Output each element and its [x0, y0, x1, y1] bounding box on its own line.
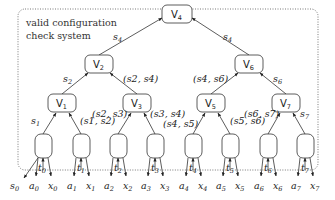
edge-label-v1-v2: s2 — [63, 73, 72, 86]
t-label-0: t0 — [38, 162, 46, 175]
bottom-label-x1: x1 — [86, 180, 96, 193]
arrow-x6-out — [273, 158, 276, 176]
arrow-x0-out — [48, 158, 51, 176]
arrow-x1-out — [86, 158, 89, 176]
arrow-a4-out — [186, 158, 188, 176]
leaf-node-2 — [110, 134, 127, 158]
bottom-label-s0: s0 — [10, 180, 19, 193]
bottom-label-x0: x0 — [48, 180, 58, 193]
bottom-label-x3: x3 — [160, 180, 170, 193]
bottom-label-a6: a6 — [254, 180, 264, 193]
edge-label-v2-v4: s4 — [113, 31, 122, 44]
arrow-a1-out — [74, 158, 76, 176]
bottom-label-a2: a2 — [104, 180, 114, 193]
configuration-check-diagram: valid configuration check system — [0, 0, 335, 200]
bottom-label-a7: a7 — [291, 180, 302, 193]
leaf-node-0 — [35, 134, 52, 158]
arrow-x3-out — [160, 158, 163, 176]
bottom-output-labels: s0 a0 x0 a1 x1 a2 x2 a3 x3 a4 x4 a5 x5 a… — [10, 180, 320, 193]
arrow-a3-out — [148, 158, 150, 176]
arrow-a7-out — [298, 158, 300, 176]
leaf-node-7 — [297, 134, 314, 158]
leaf-node-4 — [185, 134, 202, 158]
arrow-a2-out — [111, 158, 113, 176]
edge-label-l7-v7: s7 — [300, 108, 310, 121]
arrow-a6-out — [261, 158, 263, 176]
bottom-label-a1: a1 — [67, 180, 77, 193]
edge-l0-v1 — [43, 113, 56, 134]
edge-label-v7-v6: s6 — [273, 73, 282, 86]
t-input-labels: t0 t1 t2 t3 t4 t5 t6 t7 — [38, 162, 310, 175]
node-v5: V5 — [197, 94, 225, 112]
bottom-label-a5: a5 — [216, 180, 226, 193]
edge-label-l2-v3: (s2, s3) — [92, 108, 128, 119]
edge-label-v3-v2: (s2, s4) — [123, 73, 159, 84]
bottom-label-a0: a0 — [29, 180, 39, 193]
arrow-x5-out — [235, 158, 238, 176]
arrow-x2-out — [123, 158, 126, 176]
arrow-x4-out — [198, 158, 201, 176]
leaf-node-5 — [222, 134, 239, 158]
leaf-node-3 — [147, 134, 164, 158]
node-v6: V6 — [235, 55, 263, 73]
bottom-label-a3: a3 — [141, 180, 151, 193]
bottom-label-x6: x6 — [273, 180, 283, 193]
box-title-line2: check system — [26, 30, 91, 41]
leaf-nodes — [35, 134, 314, 158]
edge-label-l4-v5: (s4, s5) — [163, 118, 199, 129]
edge-v6-v4 — [192, 18, 249, 55]
arrow-a5-out — [223, 158, 225, 176]
box-title-line1: valid configuration — [25, 17, 117, 28]
bottom-label-x7: x7 — [310, 180, 320, 193]
edge-label-l0-v1: s1 — [31, 115, 40, 128]
node-v2: V2 — [85, 55, 113, 73]
bottom-label-a4: a4 — [179, 180, 189, 193]
bottom-label-x4: x4 — [198, 180, 208, 193]
edge-label-v5-v6: (s4, s6) — [193, 73, 229, 84]
node-v1: V1 — [48, 94, 76, 112]
bottom-label-x5: x5 — [235, 180, 245, 193]
edge-l5-v5 — [218, 113, 230, 134]
edge-label-l6-v7: (s6, s7) — [244, 108, 280, 119]
t-label-7: t7 — [301, 162, 310, 175]
bottom-label-x2: x2 — [123, 180, 133, 193]
leaf-node-6 — [260, 134, 277, 158]
leaf-node-1 — [73, 134, 90, 158]
node-v4: V4 — [162, 5, 192, 23]
edge-label-v6-v4: s4 — [223, 31, 232, 44]
arrow-x7-out — [310, 158, 313, 176]
